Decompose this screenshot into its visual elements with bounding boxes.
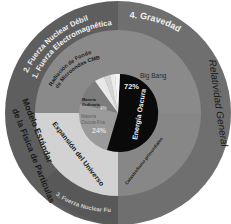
dark-matter-label-line2: Oscura Fría — [81, 120, 105, 125]
inner-pie — [79, 74, 158, 152]
label-big-bang: Big Bang — [140, 72, 167, 80]
dark-matter-label-line1: Materia — [81, 114, 97, 119]
dark-energy-value: 72% — [124, 82, 139, 91]
dark-matter-value: 24% — [92, 127, 107, 134]
ordinary-matter-value: 4% — [100, 106, 107, 111]
ordinary-matter-label-line2: Ordinaria — [82, 102, 101, 107]
cosmology-diagram: 2. Fuerza Nuclear Débil 1. Fuerza Electr… — [0, 0, 231, 224]
